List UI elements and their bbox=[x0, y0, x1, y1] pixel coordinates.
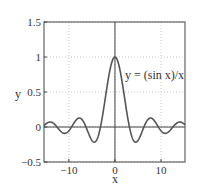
y-tick-label: 0 bbox=[36, 121, 42, 133]
x-axis-label: x bbox=[112, 172, 118, 186]
function-annotation: y = (sin x)/x bbox=[125, 68, 184, 82]
y-tick-label: 1 bbox=[36, 51, 42, 63]
y-tick-label: 0.5 bbox=[27, 86, 41, 98]
sinc-chart: −10010 −0.500.511.5 x y y = (sin x)/x bbox=[0, 0, 198, 192]
y-tick-label: 1.5 bbox=[27, 16, 41, 28]
y-axis-ticks: −0.500.511.5 bbox=[21, 16, 47, 168]
x-tick-label: −10 bbox=[60, 164, 78, 176]
x-tick-label: 10 bbox=[156, 164, 168, 176]
y-tick-label: −0.5 bbox=[21, 156, 41, 168]
y-axis-label: y bbox=[15, 87, 21, 101]
